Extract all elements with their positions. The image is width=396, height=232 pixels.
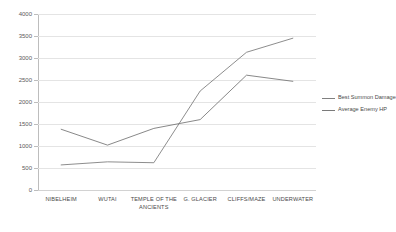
plot-area (38, 14, 316, 190)
y-axis-tick-label: 0 (2, 187, 32, 193)
y-axis-tick (34, 80, 38, 81)
y-axis-tick-label: 500 (2, 165, 32, 171)
legend-item[interactable]: Average Enemy HP (322, 104, 392, 116)
y-axis-tick (34, 190, 38, 191)
y-axis-tick-label: 1000 (2, 143, 32, 149)
x-axis-labels: NIBELHEIMWUTAITEMPLE OF THE ANCIENTSG. G… (38, 196, 316, 220)
y-axis-tick (34, 146, 38, 147)
chart-legend: Best Summon Damage Average Enemy HP (322, 92, 392, 116)
legend-label: Best Summon Damage (338, 95, 396, 101)
y-axis-tick (34, 14, 38, 15)
y-axis-tick-label: 1500 (2, 121, 32, 127)
x-axis-label: UNDERWATER (261, 196, 325, 204)
chart-title (0, 0, 392, 1)
y-axis-tick (34, 36, 38, 37)
y-axis-tick-label: 4000 (2, 11, 32, 17)
y-axis-tick (34, 168, 38, 169)
legend-item[interactable]: Best Summon Damage (322, 92, 392, 104)
y-axis-tick (34, 102, 38, 103)
series-layer (38, 14, 316, 190)
y-axis-tick (34, 124, 38, 125)
series-line (61, 75, 293, 145)
y-axis-tick-label: 2500 (2, 77, 32, 83)
series-line (61, 38, 293, 165)
y-axis-tick-label: 3500 (2, 33, 32, 39)
y-axis-tick-label: 3000 (2, 55, 32, 61)
legend-label: Average Enemy HP (338, 107, 387, 113)
legend-line-swatch-best-summon-damage (322, 98, 335, 99)
y-axis-tick (34, 58, 38, 59)
y-axis-tick-label: 2000 (2, 99, 32, 105)
legend-line-swatch-average-enemy-hp (322, 110, 335, 111)
gridline (38, 190, 316, 191)
